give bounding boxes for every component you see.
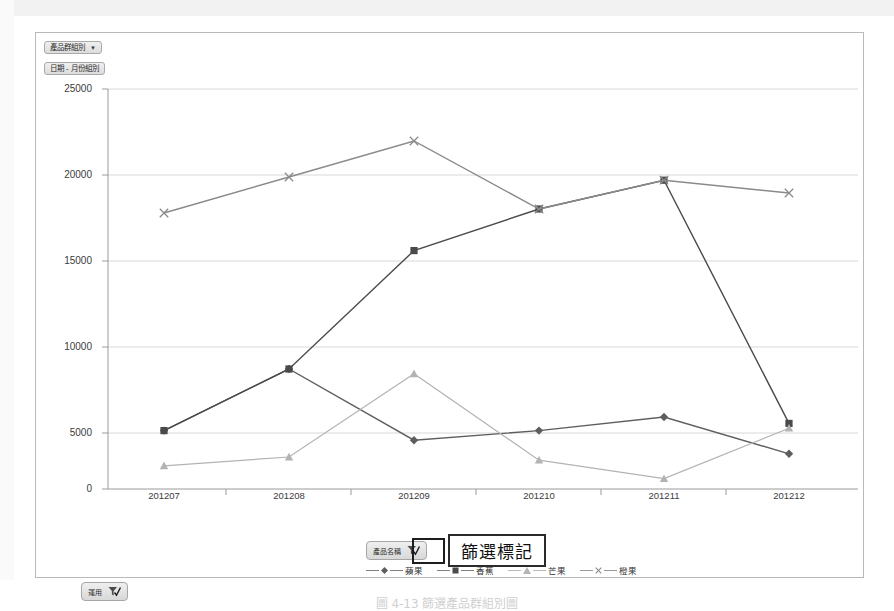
x-tick-201211: 201211 [619,490,709,501]
x-tick-201208: 201208 [244,490,334,501]
legend-item-apple[interactable]: 蘋果 [366,564,423,576]
scan-edge-top [0,0,894,16]
legend-marker-diamond-icon [381,567,388,574]
legend-label-mango: 芒果 [548,564,566,576]
legend-item-mango[interactable]: 芒果 [508,564,566,576]
legend-marker-square-icon [452,567,459,574]
series-1 [160,365,793,458]
y-tick-15000: 15000 [44,255,92,266]
figure-caption: 圖 4-13 篩選產品群組別圖 [0,594,894,611]
series-2 [160,177,792,435]
legend-line-orange [580,570,593,571]
legend-line-mango-2 [533,570,546,571]
filter-mark-highlight-box [412,538,445,564]
filter-mark-annotation: 篩選標記 [448,534,546,567]
series-layer [160,137,793,482]
legend-marker-cross-icon [595,567,602,574]
legend-marker-triangle-icon [523,567,531,574]
pivot-chart-window: 產品群組別 ▼ 日期 - 月份組別 [35,32,864,578]
y-tick-25000: 25000 [44,83,92,94]
filter-mark-annotation-text: 篩選標記 [461,538,533,563]
y-tick-20000: 20000 [44,169,92,180]
legend-label-orange: 橙果 [619,564,637,576]
legend-line-apple-2 [390,570,403,571]
gridlines [108,89,858,433]
x-tick-201210: 201210 [494,490,584,501]
x-tick-201209: 201209 [369,490,459,501]
legend-line-banana [437,570,450,571]
legend-line-mango [508,570,521,571]
chart-legend: 蘋果 香蕉 芒果 橙果 [366,564,637,576]
legend-item-orange[interactable]: 橙果 [580,564,637,576]
legend-label-apple: 蘋果 [405,564,423,576]
series-4 [160,137,793,217]
legend-line-banana-2 [461,570,474,571]
y-tick-5000: 5000 [44,427,92,438]
x-tick-201207: 201207 [119,490,209,501]
scan-edge-left [0,0,14,580]
legend-item-banana[interactable]: 香蕉 [437,564,494,576]
legend-line-apple [366,570,379,571]
y-tick-0: 0 [44,483,92,494]
legend-label-banana: 香蕉 [476,564,494,576]
x-tick-201212: 201212 [744,490,834,501]
axes [102,89,858,495]
legend-line-orange-2 [604,570,617,571]
y-tick-10000: 10000 [44,341,92,352]
product-name-slicer-label: 產品名稱 [373,546,401,556]
